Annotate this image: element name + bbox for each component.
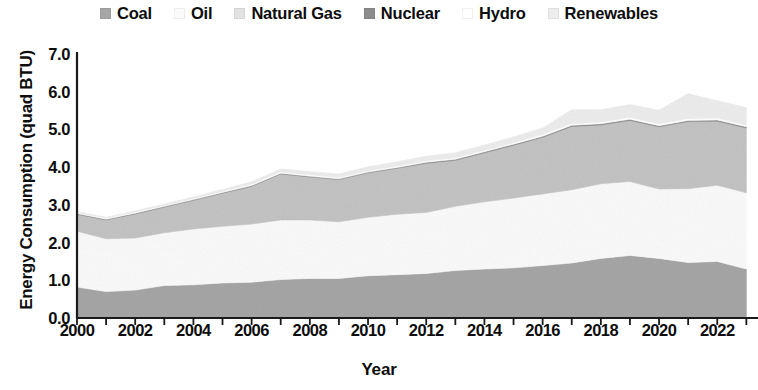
x-tick-label: 2002	[105, 322, 165, 339]
x-tick-label: 2008	[280, 322, 340, 339]
x-tick-label: 2004	[163, 322, 223, 339]
x-axis-tick-labels: 2000200220042006200820102012201420162018…	[0, 322, 758, 352]
x-axis-title: Year	[0, 360, 758, 380]
x-tick-label: 2022	[687, 322, 747, 339]
x-tick-label: 2014	[454, 322, 514, 339]
x-tick-label: 2016	[513, 322, 573, 339]
stacked-areas	[77, 94, 746, 318]
chart-figure: CoalOilNatural GasNuclearHydroRenewables…	[0, 0, 758, 390]
x-tick-label: 2010	[338, 322, 398, 339]
x-tick-label: 2012	[396, 322, 456, 339]
x-tick-label: 2006	[222, 322, 282, 339]
x-tick-label: 2018	[571, 322, 631, 339]
x-tick-label: 2020	[629, 322, 689, 339]
y-axis-title: Energy Consumption (quad BTU)	[17, 25, 37, 335]
x-tick-label: 2000	[47, 322, 107, 339]
